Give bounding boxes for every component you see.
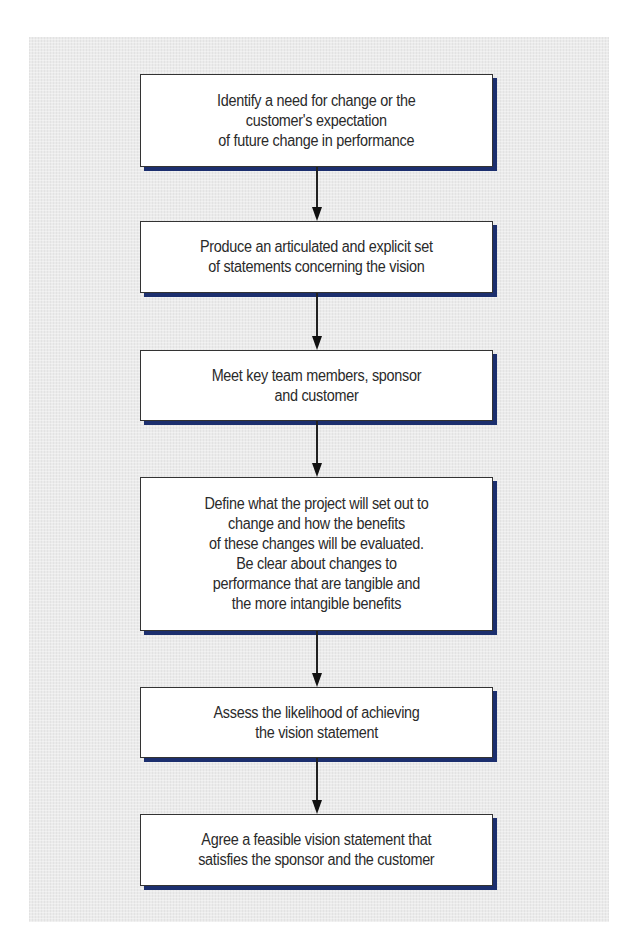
flow-step-4-label: Define what the project will set out to … xyxy=(204,494,428,614)
flow-step-5: Assess the likelihood of achieving the v… xyxy=(140,687,493,758)
connector-4-5 xyxy=(316,631,318,675)
arrow-down-icon xyxy=(312,800,322,814)
flow-step-3-label: Meet key team members, sponsor and custo… xyxy=(212,366,422,406)
flow-step-6: Agree a feasible vision statement that s… xyxy=(140,814,493,886)
flow-step-3: Meet key team members, sponsor and custo… xyxy=(140,350,493,421)
flow-step-2-label: Produce an articulated and explicit set … xyxy=(200,237,433,277)
flow-step-4: Define what the project will set out to … xyxy=(140,477,493,631)
flow-step-1-label: Identify a need for change or the custom… xyxy=(217,91,415,151)
connector-3-4 xyxy=(316,421,318,465)
connector-5-6 xyxy=(316,758,318,802)
connector-2-3 xyxy=(316,293,318,337)
arrow-down-icon xyxy=(312,673,322,687)
flow-step-2: Produce an articulated and explicit set … xyxy=(140,221,493,293)
flow-step-5-label: Assess the likelihood of achieving the v… xyxy=(213,703,419,743)
connector-1-2 xyxy=(316,167,318,209)
flow-step-6-label: Agree a feasible vision statement that s… xyxy=(198,830,434,870)
flow-step-1: Identify a need for change or the custom… xyxy=(140,74,493,167)
arrow-down-icon xyxy=(312,336,322,350)
arrow-down-icon xyxy=(312,463,322,477)
arrow-down-icon xyxy=(312,207,322,221)
